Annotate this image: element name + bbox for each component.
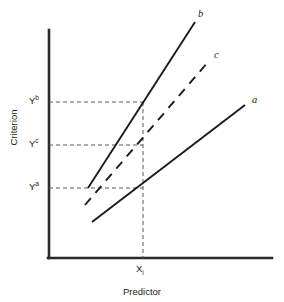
y-tick-label-ya-superscript: a (35, 180, 39, 187)
curve-label-c: c (214, 50, 219, 61)
curve-label-a: a (252, 95, 257, 106)
y-tick-label-yb-superscript: b (35, 94, 39, 101)
regression-line-a (92, 105, 245, 222)
curve-label-b: b (198, 9, 203, 20)
x-tick-label-xi-subscript: i (142, 269, 143, 276)
x-tick-label-xi: Xi (136, 264, 144, 274)
y-tick-label-ya: Ya (29, 182, 39, 192)
regression-line-b (88, 22, 195, 188)
y-tick-label-yc: Yc (29, 139, 39, 149)
y-tick-label-yb: Yb (29, 96, 39, 106)
x-axis-title: Predictor (0, 286, 284, 297)
regression-line-c (85, 62, 208, 205)
y-tick-label-yc-superscript: c (35, 137, 38, 144)
plot-area (0, 0, 284, 302)
y-axis-title: Criterion (8, 93, 19, 163)
figure-container: Yb Yc Ya Xi a b c Criterion Predictor (0, 0, 284, 302)
